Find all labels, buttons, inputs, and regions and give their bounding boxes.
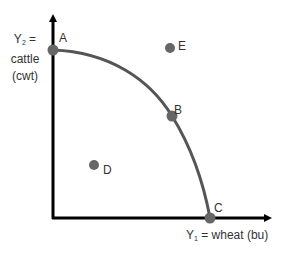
point-e-label: E bbox=[178, 39, 186, 53]
point-b-label: B bbox=[174, 103, 182, 117]
point-c-label: C bbox=[214, 201, 223, 215]
x-axis-label: Y1 = wheat (bu) bbox=[186, 228, 268, 242]
point-e bbox=[165, 43, 175, 53]
y-axis-label: Y2 = cattle (cwt) bbox=[6, 31, 44, 85]
ppf-curve bbox=[53, 50, 210, 218]
point-d bbox=[89, 160, 99, 170]
point-d-label: D bbox=[103, 163, 112, 177]
point-a bbox=[48, 45, 59, 56]
point-a-label: A bbox=[59, 31, 67, 45]
